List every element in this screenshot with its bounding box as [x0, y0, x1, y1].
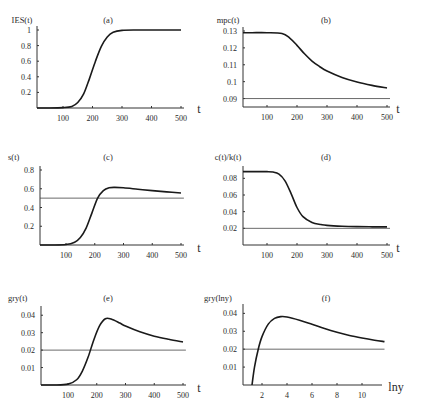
- data-curve: [41, 318, 183, 385]
- figure-six-panel-chart: 1002003004005000.20.40.60.81IES(t)(a)t10…: [0, 0, 425, 418]
- data-curve: [40, 187, 181, 245]
- x-tick-label: 500: [177, 391, 189, 400]
- x-tick-label: 400: [351, 251, 363, 260]
- x-tick-label: 400: [146, 114, 158, 123]
- x-tick-label: 100: [261, 113, 273, 122]
- y-tick-label: 0.11: [223, 61, 237, 70]
- y-tick-label: 0.2: [24, 222, 34, 231]
- x-tick-label: 500: [381, 251, 393, 260]
- chart-panel-f: 2468100.010.020.030.04gry(lny)(f)lny: [204, 293, 404, 400]
- panel-label: (b): [321, 15, 331, 25]
- x-tick-label: 100: [62, 391, 74, 400]
- panel-label: (e): [103, 293, 113, 303]
- y-tick-label: 0.02: [223, 224, 237, 233]
- panel-label: (c): [103, 152, 113, 162]
- x-tick-label: 10: [358, 391, 366, 400]
- chart-panel-d: 1002003004005000.020.040.060.08c(t)/k(t)…: [215, 152, 401, 260]
- y-tick-label: 1: [27, 26, 31, 35]
- chart-panel-c: 1002003004005000.20.40.60.8s(t)(c)t: [8, 152, 201, 260]
- x-tick-label: 200: [91, 391, 103, 400]
- y-axis-label: gry(lny): [204, 293, 232, 303]
- chart-panel-b: 1002003004005000.090.10.110.120.13mpc(t)…: [217, 15, 401, 122]
- y-tick-label: 0.12: [223, 44, 237, 53]
- y-tick-label: 0.01: [21, 364, 35, 373]
- x-axis-label: lny: [388, 380, 403, 394]
- y-axis-label: gry(t): [8, 293, 28, 303]
- panel-label: (d): [321, 152, 331, 162]
- chart-panel-e: 1002003004005000.010.020.030.04gry(t)(e)…: [8, 293, 201, 400]
- y-tick-label: 0.4: [24, 204, 34, 213]
- y-tick-label: 0.6: [21, 57, 31, 66]
- x-tick-label: 300: [120, 391, 132, 400]
- data-curve: [252, 316, 385, 385]
- y-axis-label: mpc(t): [217, 15, 240, 25]
- x-tick-label: 400: [351, 113, 363, 122]
- x-tick-label: 100: [57, 114, 69, 123]
- x-tick-label: 300: [118, 251, 130, 260]
- x-tick-label: 500: [175, 251, 187, 260]
- y-tick-label: 0.2: [21, 88, 31, 97]
- panel-label: (f): [322, 293, 331, 303]
- x-tick-label: 400: [146, 251, 158, 260]
- y-tick-label: 0.01: [223, 363, 237, 372]
- y-tick-label: 0.04: [223, 208, 237, 217]
- x-axis-label: t: [197, 241, 201, 255]
- chart-panel-a: 1002003004005000.20.40.60.81IES(t)(a)t: [12, 15, 202, 123]
- x-tick-label: 500: [175, 114, 187, 123]
- x-tick-label: 6: [310, 391, 314, 400]
- y-tick-label: 0.8: [21, 42, 31, 51]
- x-tick-label: 300: [116, 114, 128, 123]
- y-axis-label: IES(t): [12, 15, 33, 25]
- y-tick-label: 0.04: [21, 311, 35, 320]
- caption-text: partially clipped caption line (illegibl…: [0, 411, 425, 418]
- x-tick-label: 200: [89, 251, 101, 260]
- y-tick-label: 0.02: [21, 346, 35, 355]
- y-tick-label: 0.4: [21, 73, 31, 82]
- y-tick-label: 0.03: [223, 327, 237, 336]
- x-axis-label: t: [197, 102, 201, 116]
- data-curve: [37, 30, 181, 108]
- x-axis-label: t: [396, 102, 400, 116]
- x-tick-label: 4: [285, 391, 289, 400]
- x-tick-label: 300: [321, 113, 333, 122]
- x-tick-label: 200: [291, 113, 303, 122]
- x-tick-label: 500: [381, 113, 393, 122]
- y-tick-label: 0.13: [223, 27, 237, 36]
- y-axis-label: s(t): [8, 152, 20, 162]
- figure-caption-clipped: partially clipped caption line (illegibl…: [0, 410, 425, 418]
- y-tick-label: 0.6: [24, 185, 34, 194]
- x-tick-label: 8: [335, 391, 339, 400]
- x-tick-label: 100: [261, 251, 273, 260]
- y-tick-label: 0.1: [227, 78, 237, 87]
- x-tick-label: 300: [321, 251, 333, 260]
- x-tick-label: 400: [148, 391, 160, 400]
- y-tick-label: 0.02: [223, 345, 237, 354]
- y-tick-label: 0.09: [223, 95, 237, 104]
- data-curve: [243, 33, 387, 88]
- x-tick-label: 200: [291, 251, 303, 260]
- y-tick-label: 0.8: [24, 166, 34, 175]
- data-curve: [243, 172, 387, 227]
- x-tick-label: 100: [60, 251, 72, 260]
- x-tick-label: 2: [260, 391, 264, 400]
- y-tick-label: 0.08: [223, 174, 237, 183]
- x-axis-label: t: [396, 241, 400, 255]
- x-tick-label: 200: [87, 114, 99, 123]
- y-axis-label: c(t)/k(t): [215, 152, 242, 162]
- y-tick-label: 0.03: [21, 329, 35, 338]
- y-tick-label: 0.04: [223, 309, 237, 318]
- panel-label: (a): [103, 15, 113, 25]
- x-axis-label: t: [197, 381, 201, 395]
- y-tick-label: 0.06: [223, 191, 237, 200]
